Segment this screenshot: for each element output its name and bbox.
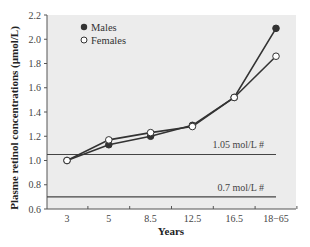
y-tick-label: 1.6 (29, 82, 42, 93)
plot-area (47, 15, 296, 209)
data-point-males (273, 25, 280, 32)
x-tick-label: 5 (106, 213, 111, 224)
y-tick-label: 1.0 (29, 155, 42, 166)
x-tick-label: 8.5 (144, 213, 157, 224)
y-tick-label: 1.4 (29, 107, 42, 118)
x-tick-label: 12.5 (184, 213, 202, 224)
x-axis-title: Years (158, 225, 185, 237)
y-tick-label: 2.2 (29, 10, 42, 21)
data-point-females (231, 94, 238, 101)
x-tick-label: 18−65 (263, 213, 289, 224)
x-axis: 358.512.516.518−65 (47, 206, 297, 224)
y-axis: 0.60.81.01.21.41.61.82.02.2 (29, 10, 48, 215)
data-point-females (189, 123, 196, 130)
data-point-females (64, 157, 71, 164)
y-tick-label: 0.6 (29, 204, 42, 215)
legend-label-females: Females (91, 35, 126, 46)
data-point-females (273, 53, 280, 60)
legend-marker-females (81, 37, 87, 43)
y-tick-label: 1.8 (29, 58, 42, 69)
y-tick-label: 0.8 (29, 179, 42, 190)
legend-label-males: Males (91, 22, 117, 33)
y-tick-label: 2.0 (29, 34, 42, 45)
reference-line-label: 0.7 mol/L # (217, 182, 264, 193)
line-chart: 0.60.81.01.21.41.61.82.02.2 358.512.516.… (0, 0, 310, 247)
x-tick-label: 3 (65, 213, 70, 224)
data-point-females (147, 129, 154, 136)
x-tick-label: 16.5 (225, 213, 243, 224)
reference-line-label: 1.05 mol/L # (212, 139, 264, 150)
data-point-females (106, 137, 113, 144)
legend-marker-males (81, 24, 87, 30)
y-tick-label: 1.2 (29, 131, 42, 142)
y-axis-title: Plasme retinol concentrations (µmol/L) (8, 26, 21, 210)
